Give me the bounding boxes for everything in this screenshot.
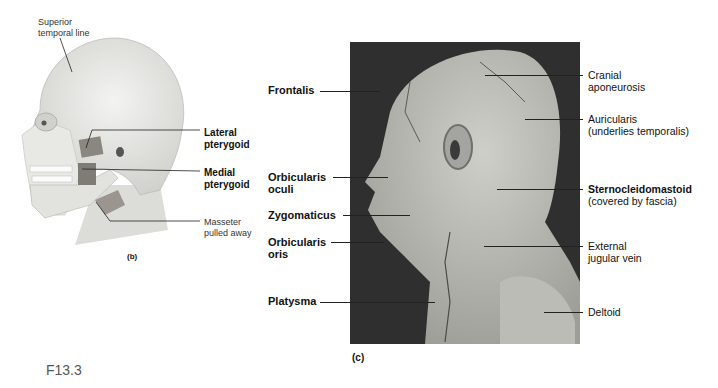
label-frontalis: Frontalis bbox=[268, 84, 314, 96]
leader-deltoid bbox=[544, 312, 583, 313]
leader-external-jugular-vein bbox=[484, 246, 583, 247]
leader-orbicularis-oris bbox=[331, 242, 384, 243]
label-masseter: Masseter pulled away bbox=[204, 217, 252, 238]
label-orbicularis-oculi: Orbicularis oculi bbox=[268, 171, 326, 195]
figure-number: F13.3 bbox=[46, 362, 82, 378]
label-medial-pterygoid: Medial pterygoid bbox=[204, 167, 250, 191]
label-zygomaticus: Zygomaticus bbox=[268, 209, 336, 221]
label-orbicularis-oris: Orbicularis oris bbox=[268, 236, 326, 260]
leader-orbicularis-oculi bbox=[333, 177, 388, 178]
leader-sternocleidomastoid bbox=[497, 189, 583, 190]
label-auricularis: Auricularis (underlies temporalis) bbox=[588, 113, 689, 137]
label-sternocleidomastoid: Sternocleidomastoid (covered by fascia) bbox=[588, 183, 692, 207]
leader-auricularis bbox=[525, 119, 583, 120]
leader-cranial-aponeurosis bbox=[485, 75, 583, 76]
label-platysma: Platysma bbox=[268, 295, 316, 307]
label-external-jugular-vein: External jugular vein bbox=[588, 240, 642, 264]
leader-platysma bbox=[320, 302, 435, 303]
dissection-photo bbox=[350, 42, 580, 344]
medial-pterygoid-muscle bbox=[78, 163, 96, 185]
label-lateral-pterygoid: Lateral pterygoid bbox=[204, 127, 250, 151]
caption-b: (b) bbox=[127, 252, 137, 261]
skull-illustration bbox=[0, 0, 240, 250]
leader-zygomaticus bbox=[343, 215, 410, 216]
caption-c: (c) bbox=[352, 352, 364, 363]
label-cranial-aponeurosis: Cranial aponeurosis bbox=[588, 69, 645, 93]
leader-frontalis bbox=[320, 91, 380, 92]
lateral-pterygoid-muscle bbox=[79, 136, 104, 158]
label-deltoid: Deltoid bbox=[588, 306, 621, 318]
label-superior-temporal-line: Superior temporal line bbox=[38, 17, 90, 38]
